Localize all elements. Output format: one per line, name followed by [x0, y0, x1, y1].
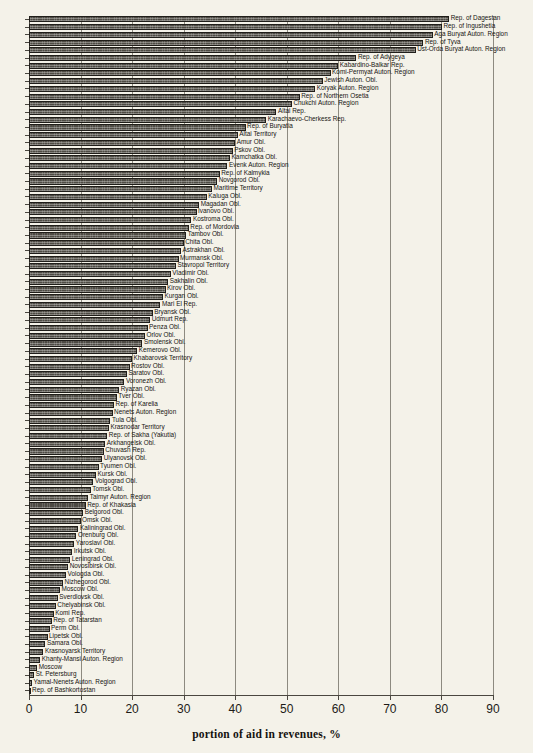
bar-row[interactable]: Rostov Obl. [29, 363, 533, 370]
bar[interactable] [29, 626, 50, 632]
bar[interactable] [29, 263, 176, 269]
bar[interactable] [29, 348, 137, 354]
bar[interactable] [29, 333, 145, 339]
bar[interactable] [29, 78, 323, 84]
bar-row[interactable]: Rep. of Northern Osetia [29, 93, 533, 100]
bar[interactable] [29, 325, 148, 331]
bar[interactable] [29, 140, 235, 146]
bar[interactable] [29, 448, 104, 454]
bar-row[interactable]: Maritime Territory [29, 186, 533, 193]
bar[interactable] [29, 495, 88, 501]
bar[interactable] [29, 371, 127, 377]
bar[interactable] [29, 564, 68, 570]
bar[interactable] [29, 472, 96, 478]
bar-row[interactable]: Jewish Auton. Obl. [29, 78, 533, 85]
bar-row[interactable]: Pskov Obl. [29, 147, 533, 154]
bar[interactable] [29, 364, 130, 370]
bar[interactable] [29, 155, 230, 161]
bar-row[interactable]: Khabarovsk Territory [29, 356, 533, 363]
bar[interactable] [29, 394, 117, 400]
bar-row[interactable]: Saratov Obl. [29, 371, 533, 378]
bar[interactable] [29, 402, 114, 408]
bar-row[interactable]: Rep. of Karelia [29, 402, 533, 409]
bar[interactable] [29, 279, 168, 285]
bar-row[interactable]: Murmansk Obl. [29, 255, 533, 262]
bar-row[interactable]: Ryazan Obl. [29, 386, 533, 393]
bar[interactable] [29, 148, 233, 154]
bar[interactable] [29, 63, 338, 69]
bar-row[interactable]: Stavropol Territory [29, 263, 533, 270]
bar[interactable] [29, 209, 197, 215]
bar-row[interactable]: Magadan Obl. [29, 201, 533, 208]
bar[interactable] [29, 549, 72, 555]
bar[interactable] [29, 86, 315, 92]
bar[interactable] [29, 410, 113, 416]
bar-row[interactable]: Kabardino-Balkar Rep. [29, 62, 533, 69]
bar[interactable] [29, 194, 207, 200]
bar[interactable] [29, 526, 78, 532]
bar-row[interactable]: Tula Obl. [29, 417, 533, 424]
bar[interactable] [29, 611, 54, 617]
bar[interactable] [29, 356, 132, 362]
bar-row[interactable]: Udmurt Rep. [29, 317, 533, 324]
bar-row[interactable]: Chelyabinsk Obl. [29, 602, 533, 609]
bar[interactable] [29, 225, 189, 231]
bar[interactable] [29, 580, 63, 586]
bar[interactable] [29, 618, 52, 624]
bar[interactable] [29, 109, 276, 115]
bar[interactable] [29, 186, 212, 192]
bar[interactable] [29, 256, 179, 262]
bar[interactable] [29, 572, 66, 578]
bar-row[interactable]: Kemerovo Obl. [29, 348, 533, 355]
bar-row[interactable]: Tambov Obl. [29, 232, 533, 239]
bar-row[interactable]: Rep. of Bashkortostan [29, 687, 533, 694]
bar-row[interactable]: Kurgan Obl. [29, 294, 533, 301]
bar[interactable] [29, 340, 142, 346]
bar[interactable] [29, 317, 150, 323]
bar-row[interactable]: Ivanovo Obl. [29, 209, 533, 216]
bar[interactable] [29, 16, 449, 22]
bar[interactable] [29, 433, 107, 439]
bar-row[interactable]: Novosibirsk Obl. [29, 564, 533, 571]
bar[interactable] [29, 24, 442, 30]
bar[interactable] [29, 518, 81, 524]
bar-row[interactable]: Rep. of Mordovia [29, 224, 533, 231]
bar-row[interactable]: Tver Obl. [29, 394, 533, 401]
bar-row[interactable]: Evenk Auton. Region [29, 163, 533, 170]
bar-row[interactable]: Sakhalin Obl. [29, 278, 533, 285]
bar[interactable] [29, 248, 181, 254]
bar[interactable] [29, 479, 93, 485]
bar-row[interactable]: Rep. of Buryatia [29, 124, 533, 131]
bar-row[interactable]: Komi-Permyat Auton. Region [29, 70, 533, 77]
bar-row[interactable]: Smolensk Obl. [29, 340, 533, 347]
bar-row[interactable]: Chita Obl. [29, 240, 533, 247]
bar-row[interactable]: Vladimir Obl. [29, 271, 533, 278]
bar[interactable] [29, 557, 70, 563]
bar[interactable] [29, 418, 110, 424]
bar[interactable] [29, 202, 199, 208]
bar[interactable] [29, 271, 171, 277]
bar-row[interactable]: Nizhegorod Obl. [29, 579, 533, 586]
bar-row[interactable]: Altai Territory [29, 132, 533, 139]
bar[interactable] [29, 595, 58, 601]
bar-row[interactable]: Amur Obl. [29, 139, 533, 146]
bar-row[interactable]: Moscow Obl. [29, 587, 533, 594]
bar[interactable] [29, 456, 102, 462]
bar-row[interactable]: Mari El Rep. [29, 301, 533, 308]
bar[interactable] [29, 32, 433, 38]
bar[interactable] [29, 603, 56, 609]
bar[interactable] [29, 286, 166, 292]
bar-row[interactable]: Astrakhan Obl. [29, 247, 533, 254]
bar-row[interactable]: Lipetsk Obl. [29, 633, 533, 640]
bar-row[interactable]: Khanty-Mansi Auton. Region [29, 656, 533, 663]
bar-row[interactable]: Komi Rep. [29, 610, 533, 617]
bar[interactable] [29, 101, 292, 107]
bar[interactable] [29, 587, 60, 593]
bar-row[interactable]: Koryak Auton. Region [29, 85, 533, 92]
bar-row[interactable]: Moscow [29, 664, 533, 671]
bar[interactable] [29, 510, 83, 516]
bar[interactable] [29, 124, 246, 130]
bar[interactable] [29, 132, 238, 138]
bar-row[interactable]: Perm Obl. [29, 626, 533, 633]
bar[interactable] [29, 487, 91, 493]
